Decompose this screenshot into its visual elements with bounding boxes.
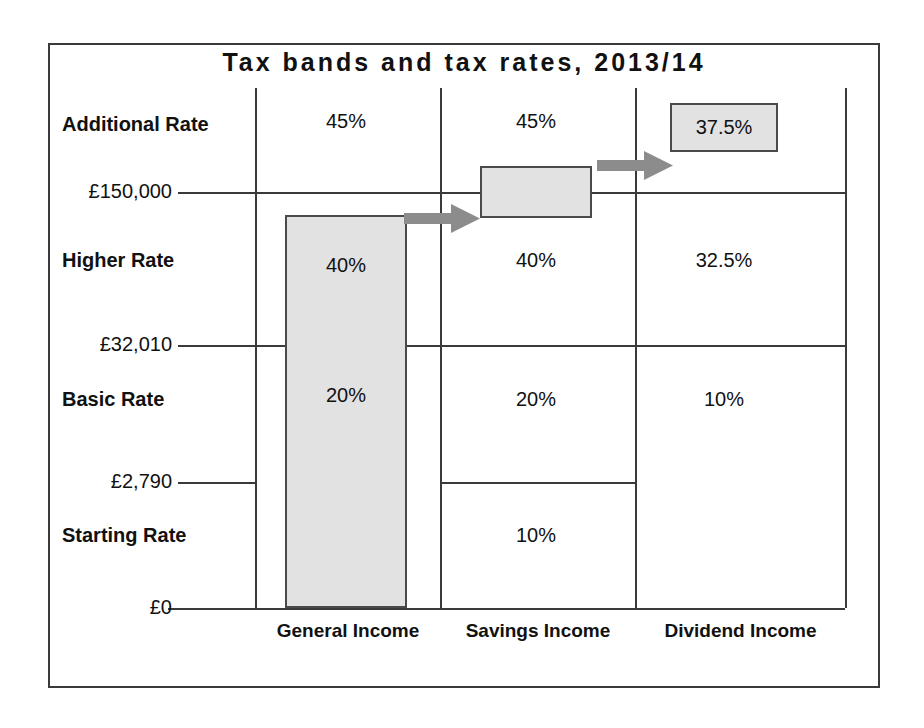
- arrow-general-to-savings: [404, 204, 482, 234]
- savings-additional-rate-value: 45%: [480, 110, 592, 133]
- general-additional-rate-value: 45%: [288, 110, 404, 133]
- column-header-savings-income: Savings Income: [443, 620, 633, 642]
- axis-label-2790: £2,790: [20, 470, 172, 493]
- general-basic-rate-value: 20%: [287, 384, 405, 407]
- column-header-general-income: General Income: [258, 620, 438, 642]
- tick-32010: [178, 345, 255, 347]
- general-higher-rate-value: 40%: [287, 254, 405, 277]
- column-divider-axis: [255, 88, 257, 608]
- column-header-dividend-income: Dividend Income: [638, 620, 843, 642]
- tick-150000: [178, 192, 255, 194]
- column-divider-right-edge: [845, 88, 847, 608]
- savings-income-box: [480, 166, 592, 218]
- dividend-basic-rate-value: 10%: [670, 388, 778, 411]
- savings-basic-rate-value: 20%: [480, 388, 592, 411]
- axis-label-0: £0: [20, 596, 172, 619]
- gridline-2790: [440, 482, 635, 484]
- band-label-higher-rate: Higher Rate: [62, 249, 174, 272]
- figure-root: Tax bands and tax rates, 2013/14 £150,00…: [0, 0, 924, 728]
- arrow-savings-to-dividend: [597, 151, 675, 181]
- band-label-starting-rate: Starting Rate: [62, 524, 186, 547]
- savings-starting-rate-value: 10%: [480, 524, 592, 547]
- savings-higher-rate-value: 40%: [480, 249, 592, 272]
- column-divider-general-savings: [440, 88, 442, 608]
- band-label-additional-rate: Additional Rate: [62, 113, 209, 136]
- axis-label-150000: £150,000: [20, 180, 172, 203]
- axis-label-32010: £32,010: [20, 333, 172, 356]
- band-label-basic-rate: Basic Rate: [62, 388, 164, 411]
- baseline-zero: [168, 608, 845, 610]
- tick-2790: [178, 482, 255, 484]
- general-income-bar: 40% 20%: [285, 215, 407, 608]
- dividend-higher-rate-value: 32.5%: [670, 249, 778, 272]
- plot-area: £150,000 £32,010 £2,790 £0 Additional Ra…: [0, 0, 924, 728]
- dividend-additional-rate-value: 37.5%: [672, 116, 776, 139]
- dividend-income-box: 37.5%: [670, 103, 778, 152]
